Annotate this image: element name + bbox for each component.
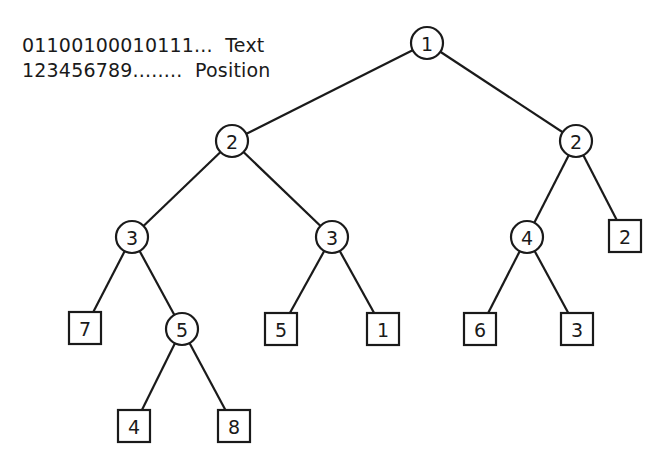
internal-node: 1 — [411, 27, 443, 59]
node-label: 3 — [126, 227, 138, 249]
suffix-tree-diagram: 122334275516348 — [0, 0, 670, 464]
leaf-node: 4 — [118, 410, 150, 442]
tree-edge — [132, 141, 232, 237]
leaf-node: 8 — [218, 410, 250, 442]
leaf-node: 7 — [69, 312, 101, 344]
node-label: 2 — [619, 226, 631, 248]
node-label: 1 — [377, 319, 389, 341]
node-label: 4 — [521, 227, 533, 249]
tree-edge — [427, 43, 576, 141]
node-label: 1 — [421, 33, 433, 55]
node-label: 3 — [571, 319, 583, 341]
node-label: 5 — [176, 319, 188, 341]
internal-node: 3 — [316, 221, 348, 253]
internal-node: 2 — [560, 125, 592, 157]
internal-node: 5 — [166, 313, 198, 345]
internal-node: 2 — [216, 125, 248, 157]
leaf-node: 3 — [561, 313, 593, 345]
node-label: 8 — [228, 416, 240, 438]
internal-node: 3 — [116, 221, 148, 253]
node-label: 2 — [226, 131, 238, 153]
leaf-node: 2 — [609, 220, 641, 252]
node-label: 7 — [79, 318, 91, 340]
internal-node: 4 — [511, 221, 543, 253]
node-label: 6 — [474, 319, 486, 341]
leaf-node: 5 — [265, 313, 297, 345]
node-label: 5 — [275, 319, 287, 341]
leaf-node: 6 — [464, 313, 496, 345]
tree-edges — [85, 43, 625, 426]
leaf-node: 1 — [367, 313, 399, 345]
node-label: 3 — [326, 227, 338, 249]
tree-edge — [232, 43, 427, 141]
tree-edge — [232, 141, 332, 237]
tree-nodes: 122334275516348 — [69, 27, 641, 442]
node-label: 4 — [128, 416, 140, 438]
node-label: 2 — [570, 131, 582, 153]
